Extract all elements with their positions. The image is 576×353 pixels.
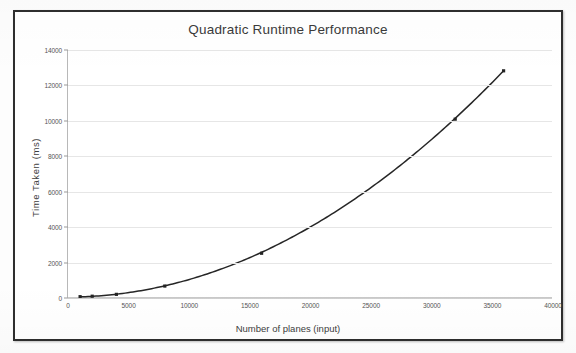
y-tick-label: 12000 — [44, 82, 62, 89]
x-tick-label: 35000 — [484, 302, 502, 309]
x-tick-label: 10000 — [180, 302, 198, 309]
gridline-y — [68, 227, 552, 228]
x-tick-label: 30000 — [423, 302, 441, 309]
y-tick-label: 6000 — [48, 188, 62, 195]
data-series-line — [68, 50, 552, 297]
plot-area: 0200040006000800010000120001400005000100… — [67, 50, 552, 298]
y-tick-label: 0 — [58, 295, 62, 302]
gridline-y — [68, 298, 552, 299]
y-tick-mark — [64, 262, 68, 263]
data-point-marker — [502, 69, 505, 72]
gridline-y — [68, 192, 552, 193]
y-tick-label: 10000 — [44, 117, 62, 124]
gridline-y — [68, 50, 552, 51]
chart-title: Quadratic Runtime Performance — [15, 22, 561, 37]
gridline-y — [68, 85, 552, 86]
data-point-marker — [163, 284, 166, 287]
y-tick-mark — [64, 85, 68, 86]
y-tick-mark — [64, 50, 68, 51]
x-tick-label: 25000 — [362, 302, 380, 309]
y-axis-title-text: Time Taken (ms) — [31, 138, 42, 217]
x-tick-label: 20000 — [302, 302, 320, 309]
y-tick-mark — [64, 120, 68, 121]
y-tick-mark — [64, 298, 68, 299]
gridline-y — [68, 263, 552, 264]
x-axis-title: Number of planes (input) — [15, 323, 561, 334]
y-tick-label: 14000 — [44, 47, 62, 54]
y-tick-label: 4000 — [48, 224, 62, 231]
y-tick-mark — [64, 191, 68, 192]
x-tick-label: 5000 — [122, 302, 136, 309]
x-tick-label: 40000 — [544, 302, 562, 309]
chart-frame: Quadratic Runtime Performance Time Taken… — [13, 10, 563, 341]
x-tick-label: 15000 — [241, 302, 259, 309]
chart-canvas: Quadratic Runtime Performance Time Taken… — [15, 12, 561, 339]
y-axis-title: Time Taken (ms) — [28, 12, 44, 343]
gridline-y — [68, 121, 552, 122]
data-point-marker — [260, 252, 263, 255]
gridline-y — [68, 156, 552, 157]
y-tick-label: 2000 — [48, 259, 62, 266]
y-tick-mark — [64, 156, 68, 157]
data-point-marker — [115, 293, 118, 296]
y-tick-mark — [64, 227, 68, 228]
x-tick-label: 0 — [66, 302, 70, 309]
y-tick-label: 8000 — [48, 153, 62, 160]
screenshot-root: Quadratic Runtime Performance Time Taken… — [0, 0, 576, 353]
